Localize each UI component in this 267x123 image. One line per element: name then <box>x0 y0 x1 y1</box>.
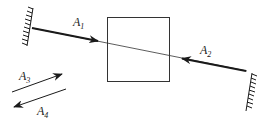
diagram-canvas: A1 A2 A3 A4 <box>0 0 267 123</box>
arrow-a2 <box>182 59 246 72</box>
label-a1: A1 <box>72 15 84 31</box>
label-a3: A3 <box>18 69 30 85</box>
label-a2: A2 <box>199 43 211 59</box>
right-wall <box>246 73 257 111</box>
label-a4: A4 <box>36 104 48 120</box>
left-wall <box>22 7 33 46</box>
arrow-a1 <box>32 28 98 41</box>
